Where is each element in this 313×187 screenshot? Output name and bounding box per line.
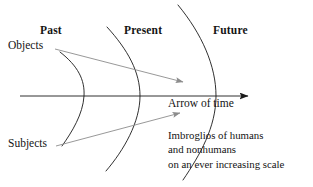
- time-arrow-diagram: Past Present Future Objects Subjects Arr…: [0, 0, 313, 187]
- imbroglios-line-3: on an ever increasing scale: [168, 157, 284, 171]
- label-future: Future: [213, 25, 248, 37]
- label-objects: Objects: [8, 40, 43, 52]
- subjects-divergence-arrow: [56, 113, 180, 146]
- past-boundary-curve: [60, 52, 84, 146]
- label-present: Present: [124, 25, 162, 37]
- label-past: Past: [40, 25, 62, 37]
- imbroglios-line-2: and nonhumans: [168, 142, 284, 156]
- label-subjects: Subjects: [8, 138, 47, 150]
- imbroglios-line-1: Imbroglios of humans: [168, 128, 284, 142]
- present-boundary-curve: [106, 27, 140, 171]
- imbroglios-annotation: Imbroglios of humans and nonhumans on an…: [168, 128, 284, 171]
- arrow-of-time-label: Arrow of time: [168, 98, 234, 110]
